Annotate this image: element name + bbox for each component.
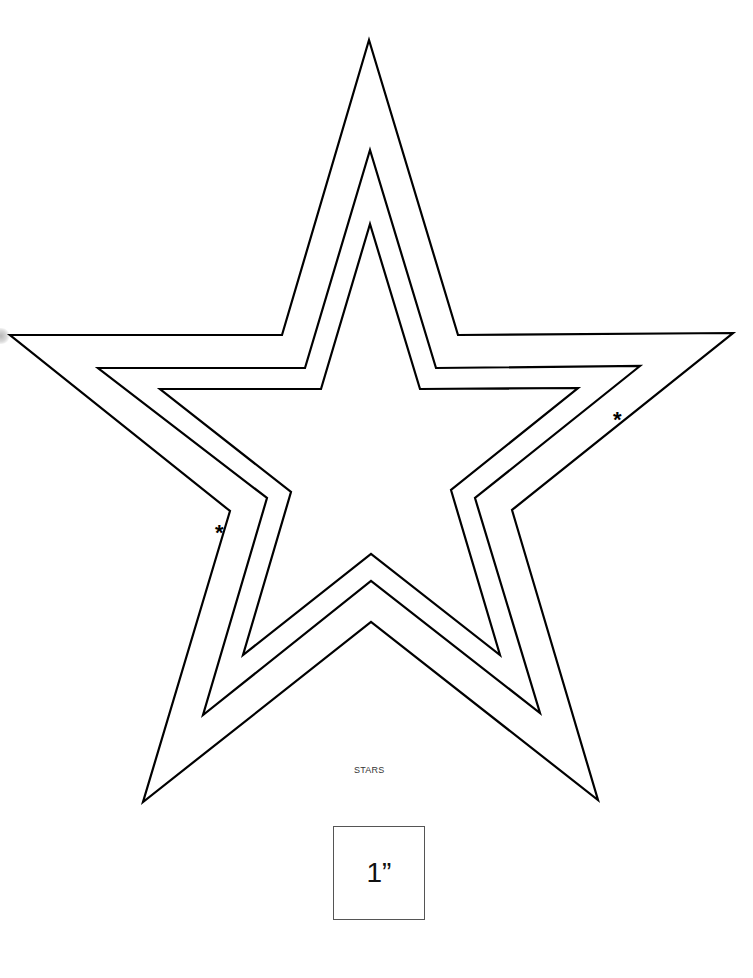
asterisk-marker-right: * xyxy=(613,409,622,431)
template-page: * * STARS 1” xyxy=(0,0,753,978)
caption-label: STARS xyxy=(354,765,384,775)
scale-label: 1” xyxy=(367,857,392,889)
scale-reference-box: 1” xyxy=(333,826,425,920)
middle-star-outline xyxy=(98,150,640,715)
inner-star-outline xyxy=(160,224,578,655)
asterisk-marker-left: * xyxy=(215,522,224,544)
